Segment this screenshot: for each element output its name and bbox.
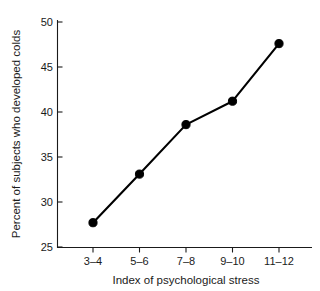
chart-figure: 50 45 40 35 30 25 3–4 5–6 7–8 9–10 11–12… — [0, 0, 320, 291]
x-tick-label: 9–10 — [220, 255, 244, 267]
data-point: 5–6: 33.1 — [135, 170, 143, 178]
data-point: 3–4: 27.7 — [89, 219, 97, 227]
data-point: 9–10: 41.2 — [228, 97, 236, 105]
y-tick-label: 25 — [41, 241, 53, 253]
y-tick-label: 45 — [41, 61, 53, 73]
data-point: 7–8: 38.6 — [182, 121, 190, 129]
y-axis-title: Percent of subjects who developed colds — [10, 30, 22, 239]
x-tick-label: 7–8 — [177, 255, 195, 267]
x-tick-label: 5–6 — [130, 255, 148, 267]
y-tick-label: 30 — [41, 196, 53, 208]
line-chart: 50 45 40 35 30 25 3–4 5–6 7–8 9–10 11–12… — [0, 0, 320, 291]
data-point: 11–12: 47.6 — [275, 40, 283, 48]
x-tick-label: 3–4 — [84, 255, 102, 267]
y-tick-label: 50 — [41, 16, 53, 28]
y-tick-label: 40 — [41, 106, 53, 118]
x-tick-label: 11–12 — [264, 255, 294, 267]
y-tick-label: 35 — [41, 151, 53, 163]
x-axis-title: Index of psychological stress — [112, 274, 259, 286]
